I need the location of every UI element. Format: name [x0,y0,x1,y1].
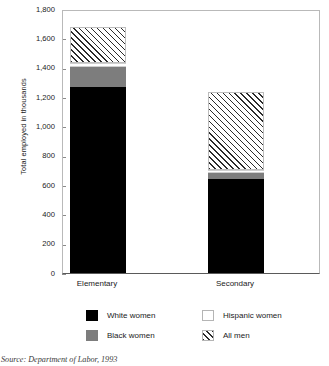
y-axis-tick-label: 1,800 [36,5,55,14]
legend: White women Hispanic women Black women A… [86,305,316,345]
legend-row: White women Hispanic women [86,305,316,325]
legend-item-hispanic-women: Hispanic women [202,305,282,325]
legend-item-all-men: All men [202,325,250,345]
bar-segment-hispanic-women [208,170,264,173]
y-axis-tick-label: 0 [51,269,55,278]
y-axis-tick-label: 800 [42,151,55,160]
stacked-bar-chart: Total employed in thousands 020040060080… [0,0,329,366]
y-axis-title: Total employed in thousands [19,42,28,212]
legend-label-black-women: Black women [107,331,155,340]
y-axis-tick-label: 200 [42,239,55,248]
y-axis-tick-label: 400 [42,210,55,219]
y-axis-tick-label: 1,600 [36,34,55,43]
plot-area [62,10,320,274]
y-axis-tick-label: 1,200 [36,93,55,102]
bar-segment-all-men [70,27,126,63]
y-axis-tick-label: 600 [42,181,55,190]
legend-swatch-black-women [86,330,98,341]
legend-swatch-all-men [202,330,214,341]
x-axis-label-elementary: Elementary [42,279,152,288]
bar-segment-all-men [208,92,264,170]
x-axis-label-secondary: Secondary [180,279,290,288]
legend-label-all-men: All men [223,331,250,340]
bar-segment-white-women [208,179,264,273]
legend-label-hispanic-women: Hispanic women [223,311,282,320]
bar-elementary [70,27,126,273]
legend-item-white-women: White women [86,305,155,325]
bar-segment-white-women [70,87,126,273]
source-note: Source: Department of Labor, 1993 [1,355,117,364]
legend-item-black-women: Black women [86,325,155,345]
bar-segment-black-women [70,67,126,87]
legend-row: Black women All men [86,325,316,345]
bar-segment-hispanic-women [70,63,126,67]
y-axis-tick-label: 1,400 [36,63,55,72]
legend-swatch-hispanic-women [202,310,214,321]
y-axis-tick-mark [62,274,66,275]
bar-segment-black-women [208,173,264,179]
y-axis-tick-label: 1,000 [36,122,55,131]
legend-swatch-white-women [86,310,98,321]
bar-secondary [208,92,264,273]
legend-label-white-women: White women [107,311,155,320]
